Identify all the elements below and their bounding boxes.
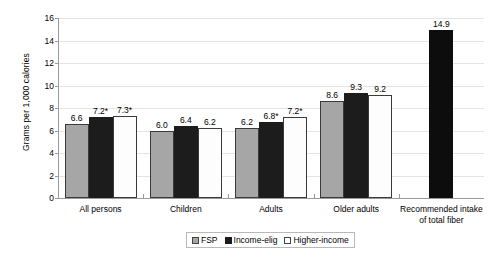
bar-value-label: 6.4 — [180, 115, 192, 125]
x-axis-category-label: Older adults — [314, 204, 399, 215]
legend-swatch-icon-income-elig — [225, 237, 232, 244]
bar: 6.4 — [174, 126, 198, 198]
caption-strip — [0, 266, 491, 274]
y-tick-mark — [55, 153, 58, 154]
bar-value-label: 6.0 — [156, 120, 168, 130]
bar: 6.6 — [65, 124, 89, 198]
y-tick-label: 14 — [45, 36, 54, 46]
bar-value-label: 6.8* — [263, 111, 278, 121]
x-axis-category-label-line: Older adults — [314, 204, 399, 215]
bar-value-label: 6.2 — [204, 117, 216, 127]
y-tick-label: 6 — [49, 126, 54, 136]
y-tick-mark — [55, 108, 58, 109]
y-axis-title: Grams per 1,000 calories — [21, 32, 31, 172]
bar: 7.2* — [283, 117, 307, 198]
x-axis-category-label: Recommended intakeof total fiber — [399, 204, 484, 226]
y-tick-mark — [55, 41, 58, 42]
y-tick-label: 4 — [49, 148, 54, 158]
group-separator-tick — [228, 194, 229, 199]
group-separator-tick — [143, 194, 144, 199]
legend-label-higher-income: Higher-income — [293, 235, 348, 245]
bar: 8.6 — [320, 101, 344, 198]
gridline — [59, 63, 484, 64]
bar: 6.2 — [198, 128, 222, 198]
bar-value-label: 8.6 — [326, 90, 338, 100]
x-axis-category-label: Adults — [228, 204, 313, 215]
gridline — [59, 18, 484, 19]
bar-value-label: 7.3* — [117, 105, 132, 115]
legend-item-higher-income: Higher-income — [284, 235, 348, 245]
x-axis-category-label-line: Recommended intake — [399, 204, 484, 215]
bar: 9.2 — [368, 95, 392, 199]
bar: 6.8* — [259, 122, 283, 199]
bar: 9.3 — [344, 93, 368, 198]
y-tick-mark — [55, 63, 58, 64]
y-tick-mark — [55, 131, 58, 132]
y-tick-label: 8 — [49, 103, 54, 113]
x-axis-category-label-line: All persons — [58, 204, 143, 215]
bar-value-label: 9.2 — [374, 84, 386, 94]
bar: 6.2 — [235, 128, 259, 198]
chart-legend: FSP Income-elig Higher-income — [186, 232, 355, 248]
bar: 7.2* — [89, 117, 113, 198]
y-tick-mark — [55, 176, 58, 177]
y-tick-label: 12 — [45, 58, 54, 68]
x-axis-category-label-line: of total fiber — [399, 215, 484, 226]
y-tick-label: 16 — [45, 13, 54, 23]
y-tick-mark — [55, 86, 58, 87]
bar-value-label: 9.3 — [350, 82, 362, 92]
fiber-intake-bar-chart: Grams per 1,000 calories 0246810121416 6… — [0, 0, 491, 274]
group-separator-tick — [314, 194, 315, 199]
bar-value-label: 6.2 — [241, 117, 253, 127]
plot-area: 0246810121416 6.67.2*7.3*6.06.46.26.26.8… — [58, 18, 484, 198]
x-axis-category-label: Children — [143, 204, 228, 215]
legend-item-fsp: FSP — [192, 235, 218, 245]
bar: 6.0 — [150, 131, 174, 199]
group-separator-tick — [399, 194, 400, 199]
gridline — [59, 41, 484, 42]
x-axis-line — [58, 198, 484, 199]
legend-label-income-elig: Income-elig — [234, 235, 278, 245]
bar-value-label: 14.9 — [433, 19, 450, 29]
legend-swatch-icon-fsp — [192, 237, 199, 244]
x-axis-category-label: All persons — [58, 204, 143, 215]
y-tick-label: 2 — [49, 171, 54, 181]
bar-value-label: 6.6 — [71, 113, 83, 123]
bar: 14.9 — [429, 30, 453, 198]
gridline — [59, 86, 484, 87]
legend-label-fsp: FSP — [201, 235, 218, 245]
bar-value-label: 7.2* — [287, 106, 302, 116]
y-tick-mark — [55, 18, 58, 19]
x-axis-category-label-line: Adults — [228, 204, 313, 215]
legend-item-income-elig: Income-elig — [225, 235, 278, 245]
y-tick-label: 10 — [45, 81, 54, 91]
bar-value-label: 7.2* — [93, 106, 108, 116]
y-tick-label: 0 — [49, 193, 54, 203]
x-axis-category-label-line: Children — [143, 204, 228, 215]
bar: 7.3* — [113, 116, 137, 198]
legend-swatch-icon-higher-income — [284, 237, 291, 244]
y-tick-mark — [55, 198, 58, 199]
